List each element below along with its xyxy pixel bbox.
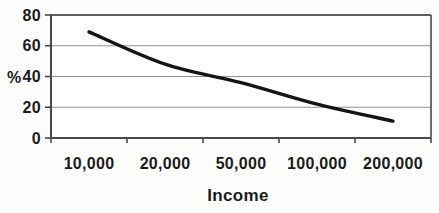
x-tick-label: 200,000 bbox=[363, 155, 423, 172]
chart-layer: 02040608010,00020,00050,000100,000200,00… bbox=[23, 7, 431, 173]
x-axis-title: Income bbox=[207, 186, 268, 205]
x-tick-label: 20,000 bbox=[140, 155, 191, 172]
y-tick-label: 60 bbox=[23, 37, 41, 54]
y-axis-title: % bbox=[7, 69, 21, 86]
income-line-chart: 02040608010,00020,00050,000100,000200,00… bbox=[0, 0, 439, 213]
y-tick-label: 40 bbox=[23, 68, 41, 85]
x-tick-label: 50,000 bbox=[216, 155, 267, 172]
x-tick-label: 10,000 bbox=[64, 155, 115, 172]
y-tick-label: 0 bbox=[32, 130, 41, 147]
y-tick-label: 80 bbox=[23, 7, 41, 24]
x-tick-label: 100,000 bbox=[287, 155, 347, 172]
y-tick-label: 20 bbox=[23, 99, 41, 116]
chart-svg: 02040608010,00020,00050,000100,000200,00… bbox=[0, 0, 439, 213]
